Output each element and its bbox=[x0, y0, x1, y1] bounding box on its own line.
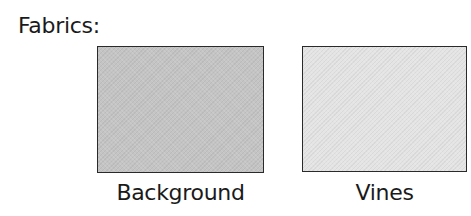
fabric-label-vines: Vines bbox=[302, 178, 467, 208]
fabric-texture bbox=[303, 47, 466, 171]
fabric-swatch-vines bbox=[302, 46, 467, 172]
fabric-label-background: Background bbox=[97, 178, 264, 208]
fabrics-heading: Fabrics: bbox=[18, 11, 100, 41]
fabric-texture bbox=[98, 47, 263, 172]
fabric-swatch-background bbox=[97, 46, 264, 173]
